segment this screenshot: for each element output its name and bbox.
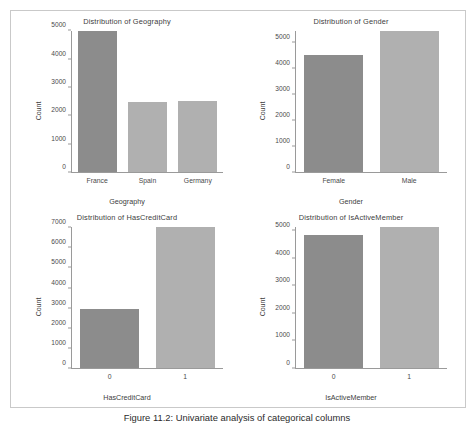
y-tick-mark [292,230,295,231]
y-tick-label: 2000 [51,106,66,113]
y-tick-mark [292,119,295,120]
bar [80,309,139,368]
x-tick-label: Spain [128,177,167,184]
y-tick-mark [68,347,71,348]
chart-panel-hascreditcard: Distribution of HasCreditCard Count 0100… [15,209,239,405]
bar-slot: Female [304,31,363,172]
y-tick-label: 3000 [275,84,290,91]
plot-area-geography: 010002000300040005000 FranceSpainGermany [71,31,223,173]
y-axis-label-gender: Count [259,102,266,121]
y-axis-label-isactivemember: Count [259,298,266,317]
y-tick-mark [68,143,71,144]
plot-area-isactivemember: 010002000300040005000 01 [295,227,447,369]
y-tick-mark [68,227,71,228]
y-tick-mark [292,368,295,369]
y-tick-mark [292,257,295,258]
x-tick-label: Male [380,177,439,184]
x-tick-label: 1 [156,373,215,380]
chart-title-geography: Distribution of Geography [15,17,239,26]
x-axis-line [295,172,447,173]
bar [156,227,215,368]
bar-group-isactivemember: 01 [296,227,447,368]
x-tick-label: Female [304,177,363,184]
y-tick-mark [68,327,71,328]
y-tick-mark [292,172,295,173]
y-tick-label: 4000 [51,49,66,56]
y-tick-mark [68,247,71,248]
y-tick-label: 2000 [275,110,290,117]
y-tick-label: 3000 [275,276,290,283]
x-axis-label-geography: Geography [15,197,239,206]
y-tick-label: 1000 [51,338,66,345]
bar [78,31,117,172]
chart-panel-isactivemember: Distribution of IsActiveMember Count 010… [239,209,463,405]
y-tick-label: 0 [286,359,290,366]
y-tick-mark [68,115,71,116]
figure-caption: Figure 11.2: Univariate analysis of cate… [0,412,474,423]
y-tick-label: 5000 [275,221,290,228]
bar-group-gender: FemaleMale [296,31,447,172]
y-axis-label-hascreditcard: Count [35,298,42,317]
y-tick-mark [292,312,295,313]
y-tick-mark [292,145,295,146]
y-tick-mark [292,67,295,68]
y-tick-label: 1000 [275,331,290,338]
x-tick-label: France [78,177,117,184]
chart-grid: Distribution of Geography Count 01000200… [11,11,465,407]
y-tick-mark [292,285,295,286]
plot-area-hascreditcard: 01000200030004000500060007000 01 [71,227,223,369]
bar-group-geography: FranceSpainGermany [72,31,223,172]
y-tick-mark [292,41,295,42]
bar-slot: Spain [128,31,167,172]
y-tick-mark [68,58,71,59]
chart-panel-geography: Distribution of Geography Count 01000200… [15,13,239,209]
y-tick-mark [68,267,71,268]
y-tick-mark [68,287,71,288]
bar [380,31,439,172]
bar [304,55,363,172]
y-tick-label: 4000 [51,278,66,285]
x-axis-line [71,172,223,173]
y-tick-mark [68,30,71,31]
bar [178,101,217,172]
y-tick-mark [68,368,71,369]
bar-slot: Male [380,31,439,172]
figure-frame: Distribution of Geography Count 01000200… [10,10,466,408]
y-tick-mark [68,307,71,308]
bar-group-hascreditcard: 01 [72,227,223,368]
x-axis-line [71,368,223,369]
bar-slot: 0 [304,227,363,368]
chart-title-isactivemember: Distribution of IsActiveMember [239,213,463,222]
chart-title-gender: Distribution of Gender [239,17,463,26]
chart-title-hascreditcard: Distribution of HasCreditCard [15,213,239,222]
bar [380,227,439,368]
y-tick-label: 1000 [275,136,290,143]
y-tick-label: 7000 [51,218,66,225]
x-axis-label-isactivemember: IsActiveMember [239,393,463,402]
y-tick-label: 4000 [275,248,290,255]
y-tick-label: 2000 [51,318,66,325]
bar-slot: 1 [380,227,439,368]
x-tick-label: 1 [380,373,439,380]
y-tick-mark [68,87,71,88]
x-axis-label-gender: Gender [239,197,463,206]
y-tick-label: 1000 [51,134,66,141]
x-axis-label-hascreditcard: HasCreditCard [15,393,239,402]
bar-slot: Germany [178,31,217,172]
y-tick-label: 3000 [51,78,66,85]
bar-slot: 0 [80,227,139,368]
bar-slot: 1 [156,227,215,368]
y-tick-label: 5000 [51,258,66,265]
y-axis-label-geography: Count [35,102,42,121]
x-tick-label: 0 [304,373,363,380]
y-tick-mark [292,93,295,94]
y-tick-label: 5000 [275,32,290,39]
y-tick-label: 0 [62,359,66,366]
y-tick-label: 2000 [275,303,290,310]
bar [128,102,167,172]
bar [304,235,363,368]
y-tick-label: 5000 [51,21,66,28]
bar-slot: France [78,31,117,172]
y-tick-label: 4000 [275,58,290,65]
x-tick-label: Germany [178,177,217,184]
